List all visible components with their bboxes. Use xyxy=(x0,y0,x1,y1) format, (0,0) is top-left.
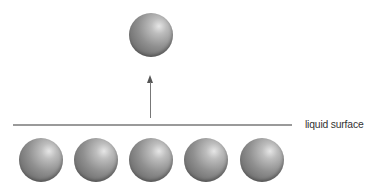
arrow-shaft xyxy=(150,82,151,118)
liquid-sphere-5 xyxy=(240,138,284,182)
liquid-sphere-3 xyxy=(129,138,173,182)
liquid-sphere-4 xyxy=(184,138,228,182)
liquid-surface-line xyxy=(13,124,292,126)
liquid-sphere-1 xyxy=(19,138,63,182)
liquid-sphere-2 xyxy=(74,138,118,182)
liquid-surface-label: liquid surface xyxy=(305,118,363,130)
escaping-sphere xyxy=(129,13,173,57)
